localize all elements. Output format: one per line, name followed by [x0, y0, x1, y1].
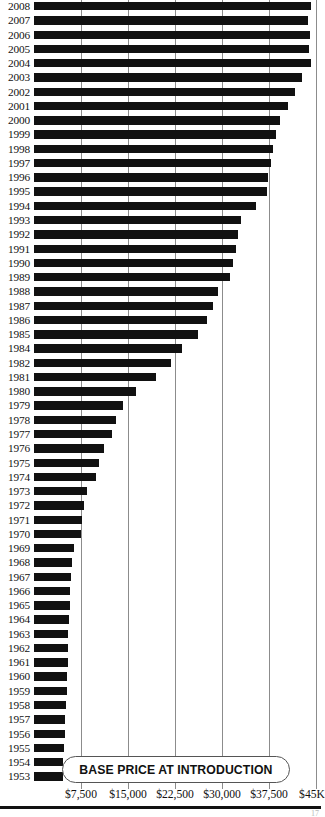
year-label: 1995	[0, 184, 30, 198]
bar-row: 1970	[0, 528, 321, 542]
bar	[34, 116, 280, 124]
bar	[34, 287, 218, 295]
bottom-rule	[0, 806, 321, 809]
year-label: 1989	[0, 270, 30, 284]
bar	[34, 730, 65, 738]
bar-row: 1984	[0, 342, 321, 356]
x-tick-label: $7,500	[65, 788, 97, 802]
bar	[34, 615, 69, 623]
bar-row: 1994	[0, 200, 321, 214]
bar-row: 1978	[0, 414, 321, 428]
x-axis-labels: $7,500$15,000$22,500$30,000$37,500$45K	[0, 788, 321, 806]
year-label: 1987	[0, 299, 30, 313]
bar	[34, 544, 74, 552]
bar	[34, 245, 236, 253]
year-label: 1976	[0, 441, 30, 455]
year-label: 1978	[0, 413, 30, 427]
bar-row: 1969	[0, 542, 321, 556]
year-label: 1997	[0, 156, 30, 170]
bar	[34, 2, 311, 10]
plot-area: 2008200720062005200420032002200120001999…	[0, 0, 321, 797]
year-label: 1967	[0, 570, 30, 584]
bar-row: 1967	[0, 571, 321, 585]
bar	[34, 273, 230, 281]
year-label: 1971	[0, 513, 30, 527]
year-label: 1954	[0, 755, 30, 769]
bar	[34, 516, 82, 524]
x-tick-label: $37,500	[250, 788, 288, 802]
bar-row: 1963	[0, 628, 321, 642]
year-label: 1957	[0, 712, 30, 726]
bar	[34, 401, 123, 409]
bar	[34, 487, 87, 495]
bar-row: 2008	[0, 0, 321, 14]
bar-row: 1964	[0, 613, 321, 627]
year-label: 1993	[0, 213, 30, 227]
bar	[34, 187, 267, 195]
chart-title-pill: BASE PRICE AT INTRODUCTION	[62, 756, 290, 783]
year-label: 2005	[0, 42, 30, 56]
bar	[34, 16, 308, 24]
year-label: 1966	[0, 584, 30, 598]
bar-row: 1997	[0, 157, 321, 171]
year-label: 1988	[0, 284, 30, 298]
bar-row: 1974	[0, 471, 321, 485]
bar-row: 1972	[0, 499, 321, 513]
year-label: 1996	[0, 170, 30, 184]
bar	[34, 302, 213, 310]
bar	[34, 259, 233, 267]
bar-rows: 2008200720062005200420032002200120001999…	[0, 0, 321, 785]
bar	[34, 230, 238, 238]
bar	[34, 344, 182, 352]
bar	[34, 687, 67, 695]
year-label: 1979	[0, 398, 30, 412]
x-tick-label: $22,500	[156, 788, 194, 802]
bar-row: 1999	[0, 128, 321, 142]
bar-row: 1959	[0, 685, 321, 699]
bar	[34, 316, 207, 324]
bar-row: 1971	[0, 514, 321, 528]
bar-row: 1979	[0, 399, 321, 413]
x-tick-label: $15,000	[109, 788, 147, 802]
year-label: 1990	[0, 256, 30, 270]
bar-row: 1982	[0, 357, 321, 371]
bar	[34, 587, 70, 595]
bar-row: 1992	[0, 228, 321, 242]
bar-row: 1989	[0, 271, 321, 285]
year-label: 1962	[0, 641, 30, 655]
bar	[34, 444, 104, 452]
bar-row: 1986	[0, 314, 321, 328]
bar-row: 1976	[0, 442, 321, 456]
bar	[34, 416, 116, 424]
bar-row: 2002	[0, 86, 321, 100]
year-label: 1994	[0, 199, 30, 213]
year-label: 1984	[0, 341, 30, 355]
year-label: 1965	[0, 598, 30, 612]
year-label: 1956	[0, 727, 30, 741]
bar-row: 1998	[0, 143, 321, 157]
bar-row: 1961	[0, 656, 321, 670]
bar-row: 2000	[0, 114, 321, 128]
bar-row: 2003	[0, 71, 321, 85]
year-label: 1986	[0, 313, 30, 327]
bar-row: 1955	[0, 742, 321, 756]
year-label: 2004	[0, 56, 30, 70]
bar-row: 1995	[0, 185, 321, 199]
bar	[34, 102, 288, 110]
bar	[34, 430, 112, 438]
year-label: 2002	[0, 85, 30, 99]
chart-title: BASE PRICE AT INTRODUCTION	[79, 762, 272, 777]
year-label: 1981	[0, 370, 30, 384]
bar	[34, 715, 65, 723]
bar	[34, 459, 99, 467]
bar	[34, 173, 268, 181]
bar-row: 1957	[0, 713, 321, 727]
bar-row: 1987	[0, 300, 321, 314]
year-label: 2003	[0, 70, 30, 84]
bar-row: 1980	[0, 385, 321, 399]
bar-row: 1988	[0, 285, 321, 299]
bar	[34, 45, 309, 53]
year-label: 1963	[0, 627, 30, 641]
bar-row: 1965	[0, 599, 321, 613]
bar-row: 1981	[0, 371, 321, 385]
